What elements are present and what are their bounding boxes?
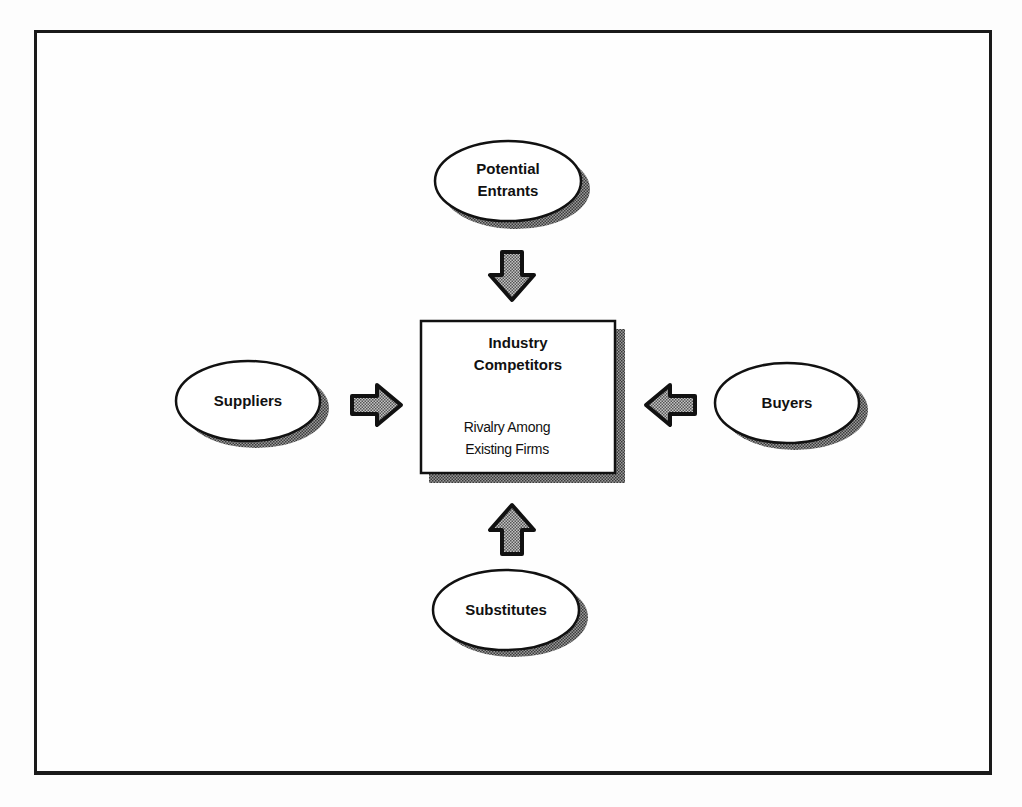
center-title: Industry Competitors: [421, 332, 615, 376]
arrow-up-icon: [490, 505, 534, 554]
center-subtitle-line1: Rivalry Among: [410, 416, 604, 438]
label-substitutes: Substitutes: [436, 599, 576, 621]
label-suppliers: Suppliers: [178, 390, 318, 412]
label-potential-entrants: Potential Entrants: [438, 158, 578, 202]
label-potential: Potential: [438, 158, 578, 180]
arrow-left-icon: [646, 385, 695, 425]
center-title-line2: Competitors: [421, 354, 615, 376]
center-title-line1: Industry: [421, 332, 615, 354]
arrow-down-icon: [490, 252, 534, 300]
center-subtitle-line2: Existing Firms: [410, 438, 604, 460]
arrow-right-icon: [352, 385, 401, 425]
label-buyers: Buyers: [717, 392, 857, 414]
label-entrants: Entrants: [438, 180, 578, 202]
diagram-canvas: [0, 0, 1022, 807]
center-subtitle: Rivalry Among Existing Firms: [410, 416, 604, 460]
